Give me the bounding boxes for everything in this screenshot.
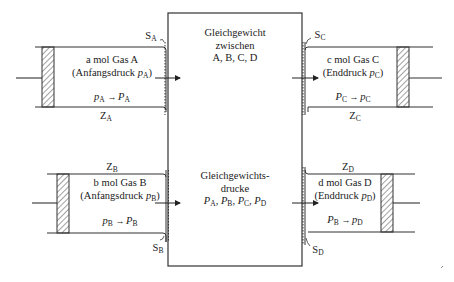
gas-c-pressure: (Enddruck pC) xyxy=(310,67,396,82)
pressures-line-2: drucke xyxy=(168,183,302,196)
equilibrium-line-2: zwischen xyxy=(168,40,302,53)
z-label-d: ZD xyxy=(338,161,358,176)
z-label-b: ZB xyxy=(102,161,122,176)
equilibrium-label: Gleichgewicht zwischen A, B, C, D xyxy=(168,27,302,65)
gas-a-change: pA → PA xyxy=(62,91,162,106)
s-label-b: SB xyxy=(150,242,166,257)
z-label-c: ZC xyxy=(345,110,365,125)
s-label-c: SC xyxy=(312,29,328,44)
gas-d-amount: d mol Gas D xyxy=(308,177,382,189)
piston-a xyxy=(42,47,54,107)
gas-d-change: PB → pD xyxy=(308,214,382,229)
gas-b-pressure: (Anfangsdruck pB) xyxy=(68,190,172,205)
piston-d xyxy=(381,174,393,232)
pressures-line-1: Gleichgewichts- xyxy=(168,170,302,183)
s-label-a: SA xyxy=(143,30,159,45)
s-label-d: SD xyxy=(310,244,326,259)
piston-c xyxy=(397,47,409,107)
gas-d-pressure: (Enddruck pD) xyxy=(308,190,382,205)
gas-b-amount: b mol Gas B xyxy=(72,177,168,189)
z-label-a: ZA xyxy=(96,110,116,125)
gas-c-change: PC → pC xyxy=(310,91,396,106)
gas-b-change: pB → PB xyxy=(72,215,168,230)
equilibrium-line-1: Gleichgewicht xyxy=(168,27,302,40)
gas-c-amount: c mol Gas C xyxy=(310,54,396,66)
pressures-symbols: PA, PB, PC, PD xyxy=(168,195,302,211)
equilibrium-line-3: A, B, C, D xyxy=(168,52,302,65)
gas-a-pressure: (Anfangsdruck pA) xyxy=(56,67,168,82)
gas-a-amount: a mol Gas A xyxy=(62,54,162,66)
equilibrium-pressures-label: Gleichgewichts- drucke PA, PB, PC, PD xyxy=(168,170,302,211)
